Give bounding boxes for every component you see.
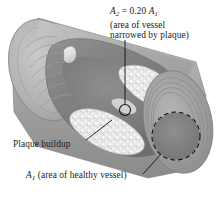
plaque-label: Plaque buildup (13, 139, 70, 150)
narrowed-area-line3: narrowed by plaque) (110, 30, 189, 40)
healthy-area-description: (area of healthy vessel) (35, 170, 126, 180)
narrowed-area-equation: = 0.20 (119, 6, 148, 16)
narrowed-area-reference-subscript: 1 (154, 10, 158, 18)
healthy-area-label: A1 (area of healthy vessel) (26, 170, 127, 184)
vessel-right-lumen (153, 113, 199, 159)
vessel-diagram-figure: A2 = 0.20 A1(area of vesselnarrowed by p… (0, 0, 224, 197)
narrowed-area-line2: (area of vessel (110, 20, 165, 30)
narrowed-area-label: A2 = 0.20 A1(area of vesselnarrowed by p… (110, 6, 189, 41)
